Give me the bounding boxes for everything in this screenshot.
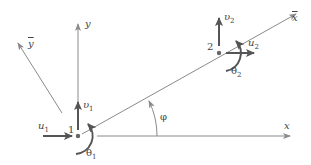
x-axis-label: x <box>284 121 290 131</box>
y-axis-label: y <box>85 19 91 29</box>
u1-label: u1 <box>38 121 49 131</box>
node-1 <box>76 134 80 138</box>
v1-label: υ1 <box>83 100 94 110</box>
y-bar-axis-label: y <box>28 39 34 49</box>
diagram-canvas <box>0 0 311 165</box>
u2-label: u2 <box>248 38 259 48</box>
node-2 <box>217 51 221 55</box>
node-2-label: 2 <box>207 42 213 52</box>
x-bar-axis-label: x <box>292 13 298 23</box>
v2-label: υ2 <box>224 12 235 22</box>
angle-phi-label: φ <box>160 112 167 122</box>
x-bar-axis <box>82 14 296 134</box>
angle-phi-arc <box>149 101 157 136</box>
y-bar-axis <box>18 43 62 113</box>
theta2-label: θ2 <box>231 66 242 76</box>
beam-element-diagram: x y y x φ 1 u1 υ1 θ1 2 u2 υ2 θ2 <box>0 0 311 165</box>
theta1-label: θ1 <box>86 148 97 158</box>
node-1-label: 1 <box>68 125 74 135</box>
